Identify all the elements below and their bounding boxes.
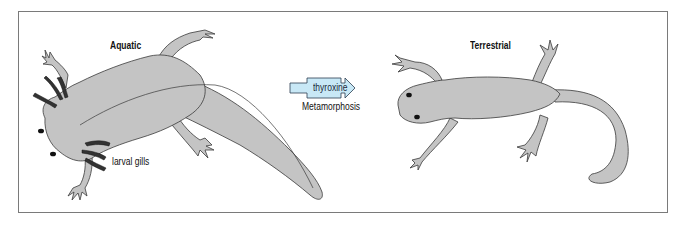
axolotl-body xyxy=(43,55,205,161)
thyroxine-label: thyroxine xyxy=(313,82,347,93)
axolotl-eye xyxy=(50,152,56,157)
aquatic-axolotl xyxy=(38,30,322,200)
terrestrial-label: Terrestrial xyxy=(470,40,511,51)
salamander-hind-right-leg xyxy=(517,115,548,162)
salamander-eye xyxy=(414,115,420,120)
metamorphosis-label: Metamorphosis xyxy=(302,101,360,112)
salamander-hind-left-leg xyxy=(532,40,558,85)
salamander-tail xyxy=(550,90,628,184)
aquatic-label: Aquatic xyxy=(110,40,141,51)
salamander-eye xyxy=(406,93,412,98)
salamander-body xyxy=(398,77,560,123)
salamander-front-left-leg xyxy=(392,55,442,82)
larval-gills-label: larval gills xyxy=(112,156,149,167)
axolotl-front-left-leg xyxy=(42,50,68,88)
terrestrial-salamander xyxy=(392,40,628,183)
axolotl-eye xyxy=(38,129,44,134)
salamander-front-right-leg xyxy=(410,118,458,170)
